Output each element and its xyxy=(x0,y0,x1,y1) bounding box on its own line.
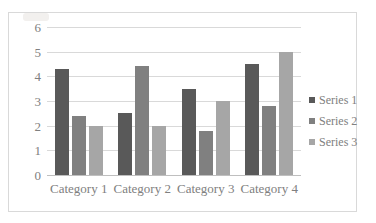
plot-area: 0123456 Category 1Category 2Category 3Ca… xyxy=(47,27,301,175)
legend-item-label: Series 3 xyxy=(319,136,357,148)
x-axis-category-label: Category 1 xyxy=(50,182,107,195)
y-axis-tick-label: 1 xyxy=(35,144,42,157)
gridline xyxy=(47,175,301,176)
bar xyxy=(199,131,213,175)
y-axis-tick-label: 3 xyxy=(35,95,42,108)
bar xyxy=(89,126,103,175)
y-axis-tick-label: 6 xyxy=(35,21,42,34)
bar xyxy=(72,116,86,175)
chart-legend: Series 1Series 2Series 3 xyxy=(309,89,363,152)
x-axis-category-label: Category 4 xyxy=(241,182,298,195)
bar xyxy=(118,113,132,175)
y-axis-tick-label: 0 xyxy=(35,169,42,182)
legend-swatch-icon xyxy=(309,139,315,145)
y-axis-tick-label: 5 xyxy=(35,45,42,58)
bar xyxy=(262,106,276,175)
x-axis-category-label: Category 3 xyxy=(177,182,234,195)
y-axis-tick-label: 4 xyxy=(35,70,42,83)
legend-item-label: Series 1 xyxy=(319,94,357,106)
y-axis-tick-label: 2 xyxy=(35,119,42,132)
legend-item-label: Series 2 xyxy=(319,115,357,127)
legend-swatch-icon xyxy=(309,118,315,124)
legend-swatch-icon xyxy=(309,97,315,103)
bar xyxy=(279,52,293,175)
x-axis-category-label: Category 2 xyxy=(114,182,171,195)
chart-frame: 0123456 Category 1Category 2Category 3Ca… xyxy=(8,12,357,212)
bar xyxy=(55,69,69,175)
legend-item: Series 2 xyxy=(309,110,363,131)
bar xyxy=(216,101,230,175)
bars-layer xyxy=(47,27,301,175)
legend-item: Series 3 xyxy=(309,131,363,152)
bar xyxy=(152,126,166,175)
bar xyxy=(182,89,196,175)
bar xyxy=(245,64,259,175)
bar xyxy=(135,66,149,175)
legend-item: Series 1 xyxy=(309,89,363,110)
